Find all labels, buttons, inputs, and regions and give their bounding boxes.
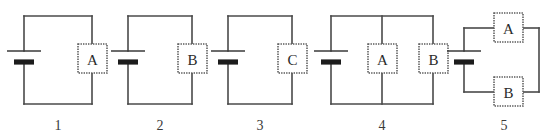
circuit-2-component-b: B bbox=[178, 44, 207, 73]
circuit-5: A B 5 bbox=[447, 13, 539, 133]
circuit-4-number: 4 bbox=[379, 118, 386, 133]
circuit-1: A 1 bbox=[7, 16, 107, 133]
circuit-3: C 3 bbox=[211, 16, 307, 133]
circuit-1-battery bbox=[7, 51, 41, 62]
circuit-4-battery bbox=[314, 51, 348, 62]
circuit-diagram-canvas: A 1 B 2 bbox=[0, 0, 547, 138]
circuit-diagram-figure: A 1 B 2 bbox=[0, 0, 547, 138]
circuit-5-component-a-label: A bbox=[503, 21, 514, 37]
circuit-1-component-a: A bbox=[78, 44, 107, 73]
circuit-4: A B 4 bbox=[314, 16, 448, 133]
circuit-3-number: 3 bbox=[257, 118, 264, 133]
circuit-3-component-c-label: C bbox=[287, 52, 297, 68]
circuit-4-component-a-label: A bbox=[377, 52, 388, 68]
circuit-5-component-b: B bbox=[494, 77, 523, 106]
circuit-1-number: 1 bbox=[55, 118, 62, 133]
circuit-2-number: 2 bbox=[157, 118, 164, 133]
circuit-5-number: 5 bbox=[501, 118, 508, 133]
circuit-3-battery bbox=[211, 51, 245, 62]
circuit-2-component-b-label: B bbox=[187, 52, 197, 68]
circuit-5-battery bbox=[447, 51, 481, 62]
circuit-4-component-b: B bbox=[419, 44, 448, 73]
circuit-1-component-a-label: A bbox=[87, 52, 98, 68]
circuit-5-component-b-label: B bbox=[503, 85, 513, 101]
circuit-2-battery bbox=[111, 51, 145, 62]
circuit-3-component-c: C bbox=[278, 44, 307, 73]
circuit-5-component-a: A bbox=[494, 13, 523, 42]
circuit-4-component-a: A bbox=[368, 44, 397, 73]
circuit-2: B 2 bbox=[111, 16, 207, 133]
circuit-4-component-b-label: B bbox=[428, 52, 438, 68]
